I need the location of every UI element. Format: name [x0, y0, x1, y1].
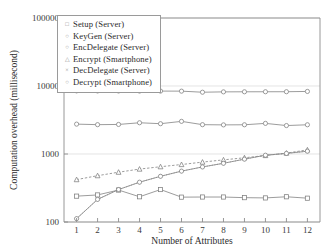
- data-point-marker: [158, 164, 163, 169]
- data-point-marker: [200, 160, 205, 165]
- data-point-marker: [284, 90, 288, 94]
- chart-legend: □Setup (Server)○KeyGen (Server)○EncDeleg…: [57, 15, 161, 93]
- x-tick-label: 6: [179, 225, 184, 235]
- data-point-marker: [179, 89, 183, 93]
- x-tick-label: 8: [221, 225, 226, 235]
- legend-marker-icon: ○: [61, 77, 73, 89]
- data-point-marker: [200, 123, 204, 127]
- y-axis-title: Computation overhead (millisecond): [9, 50, 20, 190]
- legend-item-label: KeyGen (Server): [73, 31, 133, 43]
- data-point-marker: [95, 197, 99, 201]
- legend-item[interactable]: □Setup (Server): [61, 19, 156, 31]
- data-point-marker: [95, 123, 99, 127]
- data-point-marker: [74, 122, 78, 126]
- data-point-marker: [95, 193, 99, 197]
- data-point-marker: [263, 90, 267, 94]
- legend-item[interactable]: △Encrypt (Smartphone): [61, 54, 156, 66]
- data-point-marker: [137, 195, 141, 199]
- data-point-marker: [263, 121, 267, 125]
- data-point-marker: [158, 174, 162, 178]
- data-point-marker: [179, 195, 183, 199]
- data-point-marker: [137, 180, 141, 184]
- data-point-marker: [242, 157, 246, 161]
- x-tick-label: 11: [282, 225, 291, 235]
- data-point-marker: [158, 187, 162, 191]
- legend-item[interactable]: ○Decrypt (Smartphone): [61, 77, 156, 89]
- data-point-marker: [221, 123, 225, 127]
- y-tick-label: 1000: [41, 149, 60, 159]
- legend-item-label: Encrypt (Smartphone): [73, 54, 152, 66]
- legend-item[interactable]: ○EncDelegate (Server): [61, 42, 156, 54]
- series-path: [77, 151, 308, 218]
- series-path: [77, 121, 308, 125]
- data-point-marker: [179, 119, 183, 123]
- x-tick-label: 4: [137, 225, 142, 235]
- data-point-marker: [200, 90, 204, 94]
- series-decrypt-smartphone: [74, 149, 309, 221]
- x-tick-label: 5: [158, 225, 163, 235]
- legend-marker-icon: □: [61, 19, 73, 31]
- data-point-marker: [242, 90, 246, 94]
- series-layer: [74, 89, 310, 221]
- legend-marker-icon: △: [61, 54, 73, 66]
- data-point-marker: [74, 194, 78, 198]
- data-point-marker: [263, 196, 267, 200]
- data-point-marker: [284, 151, 288, 155]
- x-tick-label: 2: [95, 225, 100, 235]
- x-tick-label: 12: [303, 225, 312, 235]
- legend-item-label: EncDelegate (Server): [73, 42, 149, 54]
- line-chart-canvas: 100100010000100000123456789101112 Number…: [0, 0, 333, 248]
- data-point-marker: [116, 187, 120, 191]
- legend-item-label: Decrypt (Smartphone): [73, 77, 152, 89]
- legend-marker-icon: ○: [61, 31, 73, 43]
- chart-figure: 100100010000100000123456789101112 Number…: [0, 0, 333, 248]
- data-point-marker: [200, 165, 204, 169]
- data-point-marker: [200, 195, 204, 199]
- data-point-marker: [305, 89, 309, 93]
- data-point-marker: [221, 90, 225, 94]
- series-keygen-server: [74, 119, 309, 127]
- x-axis-title: Number of Attributes: [151, 236, 233, 246]
- series-encrypt-smartphone: [74, 147, 310, 181]
- data-point-marker: [242, 123, 246, 127]
- data-point-marker: [179, 162, 184, 167]
- data-point-marker: [221, 161, 225, 165]
- data-point-marker: [221, 195, 225, 199]
- data-point-marker: [305, 123, 309, 127]
- legend-marker-icon: ○: [61, 42, 73, 54]
- data-point-marker: [116, 122, 120, 126]
- data-point-marker: [263, 153, 267, 157]
- series-decdelegate-server: [74, 149, 309, 221]
- x-tick-label: 10: [261, 225, 271, 235]
- legend-item-label: DecDelegate (Server): [73, 65, 150, 77]
- series-path: [77, 151, 308, 218]
- x-tick-label: 9: [242, 225, 247, 235]
- data-point-marker: [284, 195, 288, 199]
- legend-item-label: Setup (Server): [73, 19, 124, 31]
- y-tick-label: 100000: [32, 13, 60, 23]
- data-point-marker: [179, 169, 183, 173]
- data-point-marker: [158, 122, 162, 126]
- legend-item[interactable]: ×DecDelegate (Server): [61, 65, 156, 77]
- x-tick-label: 1: [74, 225, 79, 235]
- data-point-marker: [284, 123, 288, 127]
- legend-item[interactable]: ○KeyGen (Server): [61, 31, 156, 43]
- y-tick-label: 100: [46, 217, 60, 227]
- data-point-marker: [242, 196, 246, 200]
- data-point-marker: [137, 121, 141, 125]
- series-path: [77, 190, 308, 199]
- legend-marker-icon: ×: [61, 65, 73, 77]
- x-tick-label: 3: [116, 225, 121, 235]
- data-point-marker: [137, 167, 142, 172]
- data-point-marker: [305, 196, 309, 200]
- x-tick-label: 7: [200, 225, 205, 235]
- data-point-marker: [305, 149, 309, 153]
